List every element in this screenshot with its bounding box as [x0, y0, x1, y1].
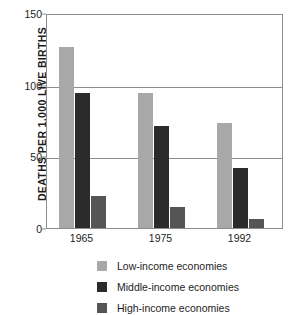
plot-area	[46, 14, 283, 229]
legend-item-high: High-income economies	[97, 297, 239, 315]
bar-1965-low	[59, 47, 75, 228]
legend-swatch-icon	[97, 303, 107, 313]
bar-1975-middle	[154, 126, 170, 228]
legend-item-label: Middle-income economies	[117, 281, 239, 293]
y-axis-tick-label: 150	[2, 8, 42, 20]
bar-1965-middle	[75, 93, 91, 228]
legend-item-middle: Middle-income economies	[97, 276, 239, 297]
x-axis-tick-label: 1965	[70, 232, 93, 244]
gridline	[47, 87, 282, 88]
legend-swatch-icon	[97, 261, 107, 271]
bar-1992-middle	[233, 168, 249, 228]
bar-1975-high	[170, 207, 186, 229]
bar-1975-low	[138, 93, 154, 228]
bar-1992-low	[217, 123, 233, 228]
legend-item-label: Low-income economies	[117, 260, 227, 272]
bar-1965-high	[91, 196, 107, 228]
infant-mortality-bar-chart: DEATHS PER 1,000 LIVE BIRTHS 150100500 1…	[0, 0, 292, 315]
x-axis-tick-label: 1992	[228, 232, 251, 244]
legend-item-low: Low-income economies	[97, 255, 239, 276]
legend-item-label: High-income economies	[117, 302, 230, 314]
y-axis-tick-label: 100	[2, 80, 42, 92]
x-axis-tick-label: 1975	[149, 232, 172, 244]
chart-legend: Low-income economiesMiddle-income econom…	[97, 255, 239, 315]
legend-swatch-icon	[97, 282, 107, 292]
bar-1992-high	[249, 219, 265, 228]
y-axis-tick-label: 50	[2, 151, 42, 163]
y-axis-tick-label: 0	[2, 223, 42, 235]
